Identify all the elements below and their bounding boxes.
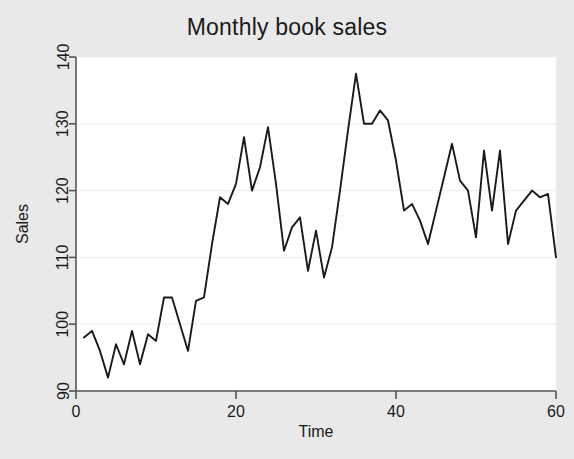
chart-figure: Monthly book sales 90100110120130140 020…	[0, 0, 574, 459]
y-tick-label-100: 100	[55, 311, 72, 338]
y-axis-title: Sales	[14, 204, 31, 244]
chart-plot-area: 90100110120130140 0204060 Sales Time	[0, 0, 574, 459]
x-tick-label-40: 40	[387, 403, 405, 420]
x-tick-label-0: 0	[72, 403, 81, 420]
y-tick-label-110: 110	[55, 245, 72, 271]
y-tick-label-130: 130	[55, 110, 72, 137]
y-axis: 90100110120130140	[55, 44, 77, 400]
x-tick-label-20: 20	[227, 403, 245, 420]
x-axis: 0204060	[72, 391, 565, 420]
y-tick-label-140: 140	[55, 44, 72, 71]
x-tick-label-60: 60	[547, 403, 565, 420]
plot-background	[76, 57, 556, 391]
y-tick-label-90: 90	[55, 382, 72, 400]
y-tick-label-120: 120	[55, 177, 72, 204]
x-axis-title: Time	[299, 423, 334, 440]
